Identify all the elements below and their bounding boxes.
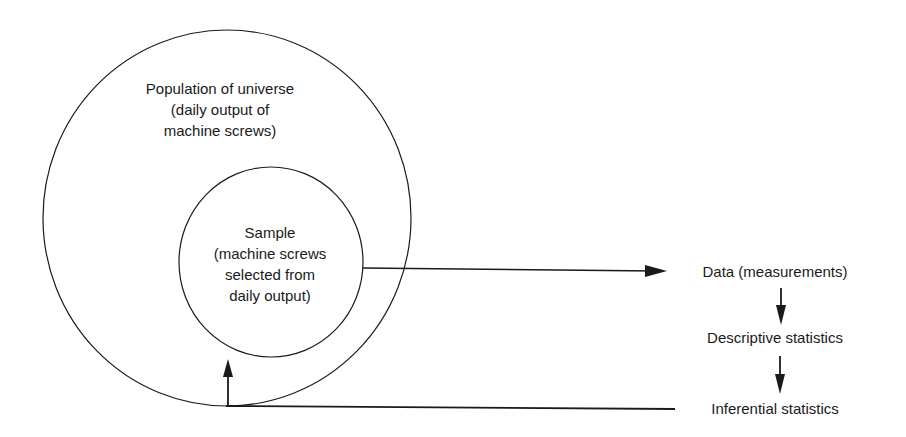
inference-feedback-arrow [223,359,675,409]
descriptive-statistics-label: Descriptive statistics [680,327,870,348]
data-measurements-label: Data (measurements) [680,261,870,282]
sample-to-data-arrow [363,265,667,277]
population-desc-2: machine screws) [120,120,320,141]
population-desc-1: (daily output of [120,99,320,120]
descriptive-to-inferential-arrow [775,356,785,394]
population-label: Population of universe (daily output of … [120,78,320,141]
population-title: Population of universe [120,78,320,99]
diagram-canvas [0,0,906,437]
sample-title: Sample [190,222,350,243]
sample-desc-3: daily output) [190,285,350,306]
sample-label: Sample (machine screws selected from dai… [190,222,350,306]
data-to-descriptive-arrow [776,288,786,325]
inferential-statistics-label: Inferential statistics [680,398,870,419]
sample-desc-2: selected from [190,264,350,285]
sample-desc-1: (machine screws [190,243,350,264]
